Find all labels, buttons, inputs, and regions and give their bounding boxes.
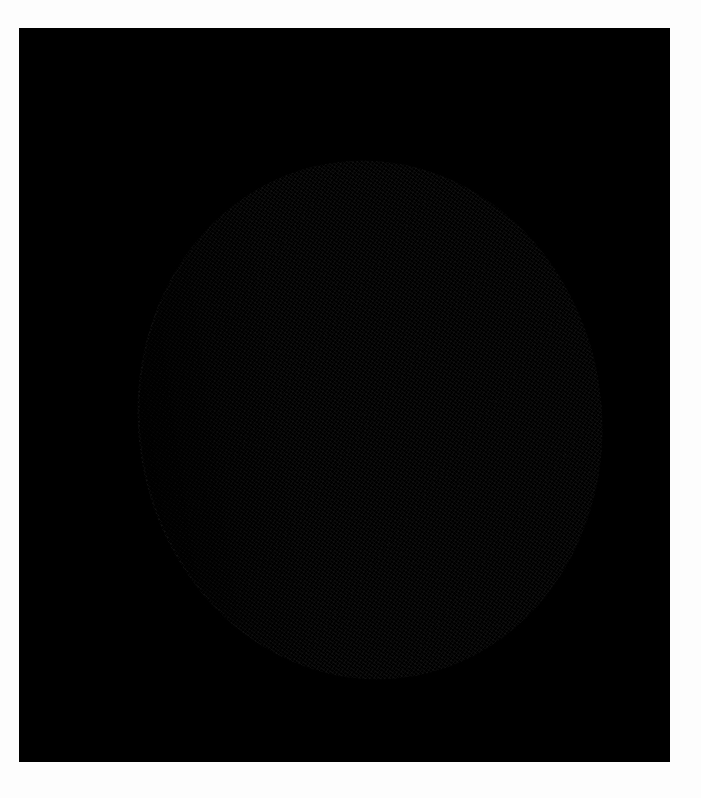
dark-central-spot bbox=[106, 133, 562, 197]
bright-haze-band bbox=[106, 133, 562, 197]
planet-disk bbox=[106, 133, 633, 708]
image-frame bbox=[19, 28, 670, 762]
page bbox=[0, 0, 701, 798]
